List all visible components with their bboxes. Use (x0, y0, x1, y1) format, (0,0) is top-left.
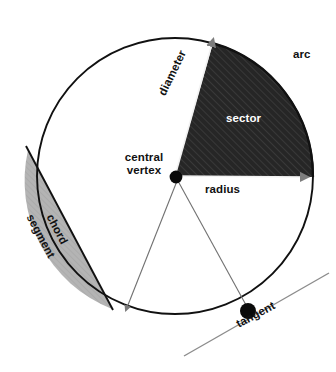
central-vertex-point (170, 171, 183, 184)
tangent-point (240, 303, 256, 319)
sector-region (175, 43, 313, 177)
circle-parts-diagram: central vertex radius arc sector diamete… (0, 0, 336, 372)
tangent-pointer-line (178, 181, 246, 305)
radius-line (175, 176, 307, 177)
tangent-line (184, 273, 329, 356)
geometry-canvas (0, 0, 336, 372)
chord-pointer-line (126, 181, 177, 310)
